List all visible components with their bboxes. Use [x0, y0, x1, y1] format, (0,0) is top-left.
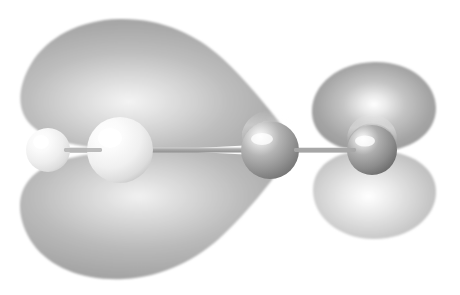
hydrogen-atom — [26, 128, 70, 172]
bond-overlay-c2-c3 — [294, 148, 356, 152]
carbon-atom-2 — [241, 111, 299, 179]
bond-overlay-h-c1 — [64, 148, 102, 152]
orbital-canvas — [0, 0, 460, 295]
molecular-orbital-figure: Molecular orbital isosurface pi-antibond… — [0, 0, 460, 295]
bond-c1-c2 — [140, 148, 258, 153]
